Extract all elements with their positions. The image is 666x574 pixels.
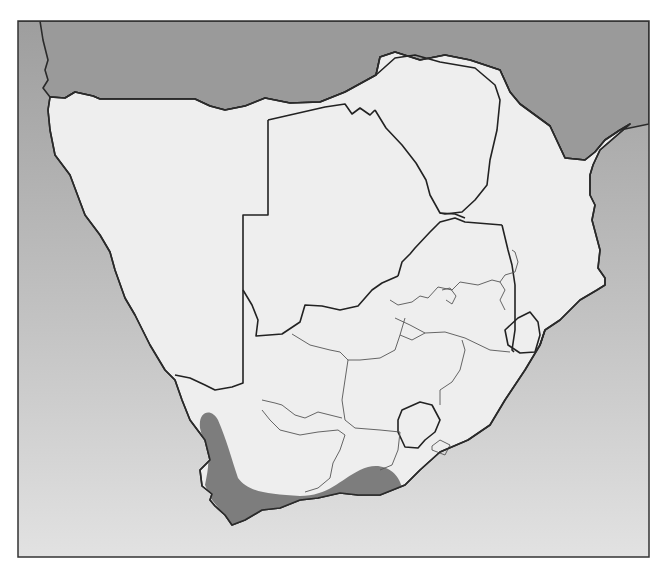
map-container: [0, 0, 666, 574]
southern-africa-map: [0, 0, 666, 574]
